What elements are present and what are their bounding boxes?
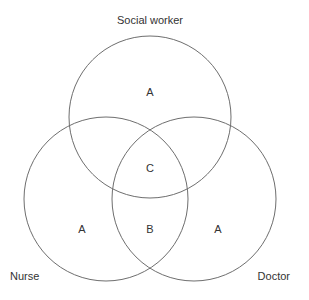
doctor-label: Doctor: [258, 270, 291, 282]
region-all-three: C: [146, 162, 154, 174]
venn-diagram: Social worker Nurse Doctor A C A B A: [0, 0, 309, 300]
nurse-label: Nurse: [10, 270, 39, 282]
social-worker-label: Social worker: [117, 14, 183, 26]
region-nurse-only: A: [78, 223, 86, 235]
region-doctor-only: A: [214, 223, 222, 235]
doctor-circle: [112, 117, 276, 281]
nurse-circle: [24, 117, 188, 281]
region-social-worker-only: A: [146, 86, 154, 98]
region-nurse-doctor: B: [146, 223, 153, 235]
